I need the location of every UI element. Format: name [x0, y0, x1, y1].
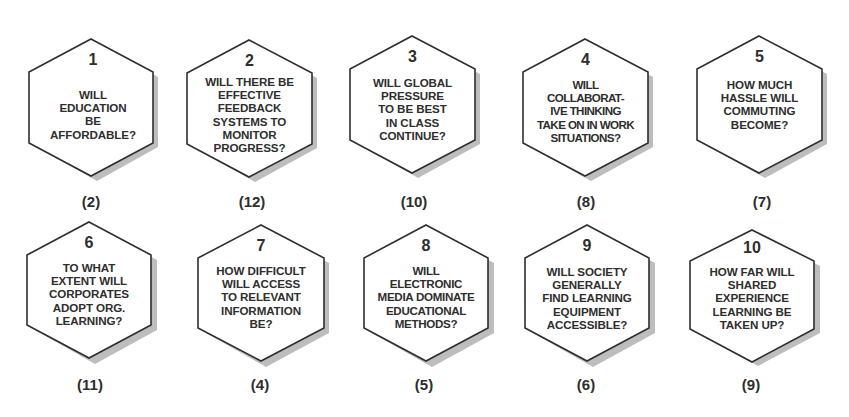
rank-label-3: (10) — [384, 193, 444, 211]
rank-label-7: (4) — [230, 376, 290, 394]
question-number: 1 — [28, 51, 158, 69]
hexagon-question-1: 1 WILL EDUCATION BE AFFORDABLE? — [28, 38, 158, 178]
hexagon-question-5: 5 HOW MUCH HASSLE WILL COMMUTING BECOME? — [696, 35, 826, 175]
rank-label-4: (8) — [556, 193, 616, 211]
rank-label-10: (9) — [721, 376, 781, 394]
question-text: WILL EDUCATION BE AFFORDABLE? — [32, 88, 154, 141]
question-text: WILL GLOBAL PRESSURE TO BE BEST IN CLASS… — [353, 76, 472, 142]
hexagon-question-8: 8 WILL ELECTRONIC MEDIA DOMINATE EDUCATI… — [363, 224, 493, 364]
question-text: WILL COLLABORAT- IVE THINKING TAKE ON IN… — [522, 78, 649, 144]
hexagon-question-6: 6 TO WHAT EXTENT WILL CORPORATES ADOPT O… — [26, 221, 156, 361]
question-number: 6 — [26, 234, 152, 252]
question-text: WILL THERE BE EFFECTIVE FEEDBACK SYSTEMS… — [190, 75, 309, 154]
question-text: WILL ELECTRONIC MEDIA DOMINATE EDUCATION… — [363, 264, 489, 330]
hexagon-question-9: 9 WILL SOCIETY GENERALLY FIND LEARNING E… — [524, 224, 654, 364]
hexagon-question-7: 7 HOW DIFFICULT WILL ACCESS TO RELEVANT … — [197, 224, 327, 364]
question-text: TO WHAT EXTENT WILL CORPORATES ADOPT ORG… — [30, 261, 148, 327]
rank-label-2: (12) — [222, 193, 282, 211]
question-text: HOW DIFFICULT WILL ACCESS TO RELEVANT IN… — [201, 264, 321, 330]
question-number: 8 — [363, 237, 489, 255]
hexagon-question-10: 10 HOW FAR WILL SHARED EXPERIENCE LEARNI… — [689, 229, 819, 369]
question-number: 10 — [689, 239, 815, 257]
hexagon-question-2: 2 WILL THERE BE EFFECTIVE FEEDBACK SYSTE… — [186, 39, 316, 179]
question-number: 4 — [522, 51, 649, 69]
question-text: HOW FAR WILL SHARED EXPERIENCE LEARNING … — [693, 265, 811, 331]
question-number: 7 — [197, 237, 325, 255]
question-text: HOW MUCH HASSLE WILL COMMUTING BECOME? — [700, 78, 819, 131]
question-number: 2 — [186, 52, 313, 70]
rank-label-9: (6) — [556, 376, 616, 394]
rank-label-8: (5) — [394, 376, 454, 394]
hexagon-question-4: 4 WILL COLLABORAT- IVE THINKING TAKE ON … — [522, 38, 652, 178]
rank-label-1: (2) — [61, 193, 121, 211]
rank-label-6: (11) — [60, 376, 120, 394]
question-text: WILL SOCIETY GENERALLY FIND LEARNING EQU… — [526, 265, 648, 331]
question-number: 9 — [524, 237, 650, 255]
rank-label-5: (7) — [732, 193, 792, 211]
question-number: 5 — [696, 48, 823, 66]
hexagon-question-3: 3 WILL GLOBAL PRESSURE TO BE BEST IN CLA… — [349, 35, 479, 175]
question-number: 3 — [349, 48, 476, 66]
